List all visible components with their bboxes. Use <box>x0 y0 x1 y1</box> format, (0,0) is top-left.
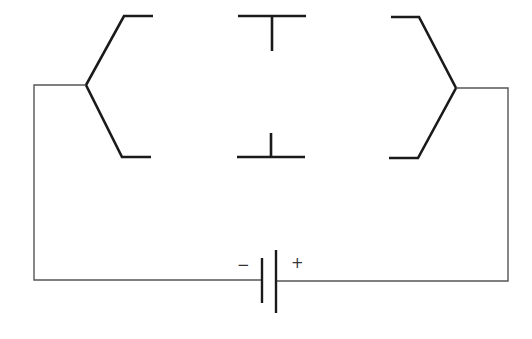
battery-positive-label: + <box>291 254 304 272</box>
right-y-plate <box>389 17 456 158</box>
right-y-electrode <box>389 17 456 158</box>
battery-negative-label: − <box>237 256 250 274</box>
left-wire <box>34 85 262 280</box>
top-t-plate <box>238 16 306 51</box>
left-y-electrode <box>86 16 153 157</box>
circuit-diagram: − + <box>0 0 532 339</box>
right-wire <box>276 88 508 281</box>
bottom-t-plate <box>237 133 305 157</box>
left-y-plate <box>86 16 153 157</box>
